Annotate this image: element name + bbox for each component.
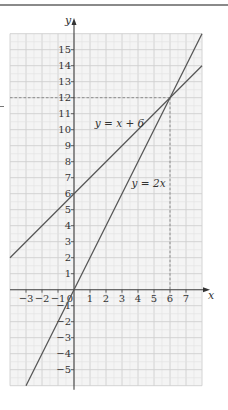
y-tick-label: 5 <box>65 204 71 215</box>
x-tick-label: 6 <box>167 293 173 304</box>
x-tick-label: 7 <box>183 293 189 304</box>
y-axis-label: y <box>64 14 72 27</box>
y-tick-label: 14 <box>58 60 71 71</box>
y-tick-label: 4 <box>65 220 71 231</box>
x-tick-label: 5 <box>151 293 157 304</box>
x-tick-label: 3 <box>119 293 125 304</box>
y-tick-label: 7 <box>65 172 71 183</box>
y-tick-label: 15 <box>58 44 71 55</box>
y-tick-label: 8 <box>65 156 71 167</box>
y-tick-label: −4 <box>56 348 71 359</box>
x-tick-label: 4 <box>135 293 141 304</box>
x-tick-label: −3 <box>19 293 34 304</box>
series-label-2: y = 2x <box>131 177 166 189</box>
x-tick-label: 2 <box>103 293 109 304</box>
y-tick-label: 1 <box>65 268 71 279</box>
series-label-1: y = x + 6 <box>94 117 145 129</box>
y-tick-label: 2 <box>65 252 71 263</box>
y-tick-label: 10 <box>58 124 71 135</box>
y-tick-label: −5 <box>56 364 71 375</box>
x-axis-label: x <box>208 289 215 302</box>
chart: −3−2−101234567−5−4−3−2−11234567891011121… <box>0 0 228 410</box>
y-tick-label: 13 <box>58 76 71 87</box>
x-tick-label: 1 <box>87 293 93 304</box>
y-tick-label: 12 <box>58 92 71 103</box>
y-tick-label: 11 <box>58 108 71 119</box>
y-axis-arrow <box>72 18 77 25</box>
y-tick-label: 9 <box>65 140 71 151</box>
y-tick-label: 3 <box>65 236 71 247</box>
x-tick-label: −2 <box>35 293 50 304</box>
y-tick-label: −3 <box>56 332 71 343</box>
grid <box>10 34 202 386</box>
